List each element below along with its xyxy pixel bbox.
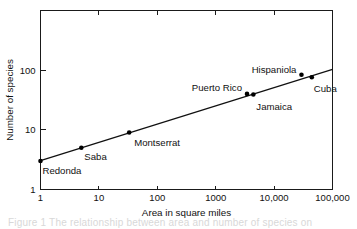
data-label-saba: Saba [84,151,107,162]
x-tick-label-2: 100 [149,192,165,203]
data-point-cuba [310,75,315,80]
data-point-jamaica [251,92,256,97]
x-tick-label-1: 10 [94,192,105,203]
data-point-montserrat [127,130,132,135]
data-label-montserrat: Montserrat [134,137,180,148]
x-tick-label-0: 1 [38,192,43,203]
regression-line [41,69,333,160]
data-label-puerto-rico: Puerto Rico [192,82,242,93]
x-axis-title: Area in square miles [142,207,231,218]
chart-canvas: 110100100010,000100,000 110100 RedondaSa… [0,0,357,229]
figure-caption-partial: Figure 1 The relationship between area a… [0,217,357,229]
x-tick-label-5: 100,000 [315,192,349,203]
data-label-redonda: Redonda [43,165,83,176]
y-axis-tick-labels: 110100 [20,65,36,195]
data-point-puerto-rico [245,92,250,97]
data-point-redonda [38,159,43,164]
y-tick-label-1: 10 [25,124,36,135]
x-tick-label-3: 1000 [205,192,226,203]
y-tick-label-2: 100 [20,65,36,76]
data-point-saba [79,145,84,150]
data-label-jamaica: Jamaica [256,101,292,112]
data-label-cuba: Cuba [314,83,338,94]
x-axis-tick-labels: 110100100010,000100,000 [38,192,350,203]
data-point-hispaniola [299,72,304,77]
trend-line [41,69,333,160]
species-area-figure: 110100100010,000100,000 110100 RedondaSa… [0,0,357,229]
y-tick-label-0: 1 [30,184,35,195]
x-tick-label-4: 10,000 [260,192,289,203]
data-point-labels: RedondaSabaMontserratPuerto RicoJamaicaH… [43,64,338,176]
data-label-hispaniola: Hispaniola [252,64,297,75]
y-axis-title: Number of species [4,59,15,141]
